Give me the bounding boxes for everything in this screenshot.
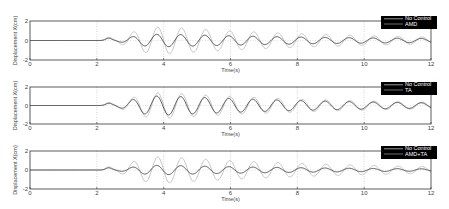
x-tick-label: 8 bbox=[296, 190, 300, 196]
x-tick-label: 8 bbox=[296, 125, 300, 131]
y-tick-label: -2 bbox=[23, 186, 29, 192]
x-axis-label: Time(s) bbox=[221, 67, 240, 73]
x-axis-label: Time(s) bbox=[221, 196, 240, 202]
legend: No ControlTA bbox=[381, 81, 437, 95]
chart-canvas: 024681012-202Time(s)Displacement X(cm)No… bbox=[0, 0, 449, 209]
figure: 024681012-202Time(s)Displacement X(cm)No… bbox=[0, 0, 449, 209]
x-tick-label: 4 bbox=[162, 190, 166, 196]
y-axis-label: Displacement X(cm) bbox=[12, 81, 18, 131]
y-tick-label: 0 bbox=[25, 103, 29, 109]
x-axis-label: Time(s) bbox=[221, 131, 240, 137]
y-tick-label: 2 bbox=[25, 84, 29, 90]
subplot-3: 024681012-202Time(s)Displacement X(cm)No… bbox=[12, 145, 437, 202]
y-tick-label: -2 bbox=[23, 121, 29, 127]
y-tick-label: 0 bbox=[25, 38, 29, 44]
legend: No ControlAMD+TA bbox=[381, 145, 437, 159]
x-tick-label: 0 bbox=[28, 190, 32, 196]
subplot-1: 024681012-202Time(s)Displacement X(cm)No… bbox=[12, 15, 437, 73]
y-tick-label: 2 bbox=[25, 18, 29, 24]
x-tick-label: 8 bbox=[296, 61, 300, 67]
y-tick-label: 0 bbox=[25, 167, 29, 173]
x-tick-label: 0 bbox=[28, 61, 32, 67]
x-tick-label: 4 bbox=[162, 125, 166, 131]
x-tick-label: 10 bbox=[361, 190, 368, 196]
x-tick-label: 2 bbox=[95, 190, 99, 196]
y-tick-label: 2 bbox=[25, 148, 29, 154]
subplot-2: 024681012-202Time(s)Displacement X(cm)No… bbox=[12, 81, 437, 137]
x-tick-label: 10 bbox=[361, 125, 368, 131]
y-axis-label: Displacement X(cm) bbox=[12, 145, 18, 195]
x-tick-label: 12 bbox=[428, 190, 435, 196]
legend: No ControlAMD bbox=[381, 15, 437, 29]
y-tick-label: -2 bbox=[23, 57, 29, 63]
x-tick-label: 10 bbox=[361, 61, 368, 67]
legend-label: AMD+TA bbox=[405, 151, 427, 157]
x-tick-label: 0 bbox=[28, 125, 32, 131]
x-tick-label: 12 bbox=[428, 61, 435, 67]
x-tick-label: 4 bbox=[162, 61, 166, 67]
x-tick-label: 12 bbox=[428, 125, 435, 131]
x-tick-label: 2 bbox=[95, 125, 99, 131]
y-axis-label: Displacement X(cm) bbox=[12, 16, 18, 66]
legend-label: AMD bbox=[405, 21, 417, 27]
legend-label: TA bbox=[405, 87, 412, 93]
x-tick-label: 2 bbox=[95, 61, 99, 67]
